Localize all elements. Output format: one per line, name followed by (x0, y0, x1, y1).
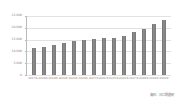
bar-slot (29, 16, 39, 75)
bar-slot (109, 16, 119, 75)
bar (132, 32, 136, 75)
x-axis-tick-label: 2023年 (88, 77, 98, 85)
x-axis-tick-label: 2021年 (68, 77, 78, 85)
bar-slot (79, 16, 89, 75)
x-axis-tick-label: 2028年 (139, 77, 149, 85)
bar-slot (149, 16, 159, 75)
y-axis-tick-mark (25, 75, 27, 76)
y-axis-labels: 25,00020,00015,00010,0005,0000 (0, 16, 25, 76)
bar-slot (69, 16, 79, 75)
bar (82, 40, 86, 75)
bar (62, 43, 66, 75)
x-axis-tick-label: 2026年 (119, 77, 129, 85)
x-axis-labels: 2017年2018年2019年2020年2021年2022年2023年2024年… (26, 77, 171, 85)
bar (162, 20, 166, 75)
y-axis-tick-label: 10,000 (11, 50, 22, 53)
bar-slot (39, 16, 49, 75)
bar (122, 36, 126, 75)
bar (52, 45, 56, 75)
bar (42, 47, 46, 75)
chart-figure: 25,00020,00015,00010,0005,0000 2017年2018… (0, 0, 178, 101)
bar-slot (159, 16, 169, 75)
bar (112, 38, 116, 75)
x-axis-tick-label: 2018年 (38, 77, 48, 85)
bar (92, 39, 96, 75)
x-axis-tick-label: 2022年 (78, 77, 88, 85)
x-axis-tick-label: 2019年 (48, 77, 58, 85)
source-note: 資料：日口問題研 (150, 94, 174, 98)
y-axis-tick-label: 0 (20, 74, 22, 77)
y-axis-tick-label: 20,000 (11, 26, 22, 29)
gridline (27, 75, 171, 76)
x-axis-tick-label: 2029年 (149, 77, 159, 85)
bar-slot (129, 16, 139, 75)
bar-slot (89, 16, 99, 75)
x-axis-tick-label: 2030年 (159, 77, 169, 85)
bar (152, 24, 156, 75)
y-axis-tick-label: 5,000 (13, 62, 22, 65)
y-axis-tick-label: 15,000 (11, 38, 22, 41)
y-axis-tick-label: 25,000 (11, 14, 22, 17)
bar (72, 41, 76, 75)
bar (32, 48, 36, 75)
bar (142, 29, 146, 75)
x-axis-tick-label: 2017年 (28, 77, 38, 85)
bar-slot (139, 16, 149, 75)
bar (102, 38, 106, 75)
source-divider (110, 90, 174, 91)
bar-slot (119, 16, 129, 75)
bar-slot (99, 16, 109, 75)
plot-area (26, 16, 171, 76)
x-axis-tick-label: 2024年 (99, 77, 109, 85)
bar-slot (49, 16, 59, 75)
bar-series (27, 16, 171, 75)
x-axis-tick-label: 2027年 (129, 77, 139, 85)
x-axis-tick-label: 2025年 (109, 77, 119, 85)
bar-slot (59, 16, 69, 75)
x-axis-tick-label: 2020年 (58, 77, 68, 85)
